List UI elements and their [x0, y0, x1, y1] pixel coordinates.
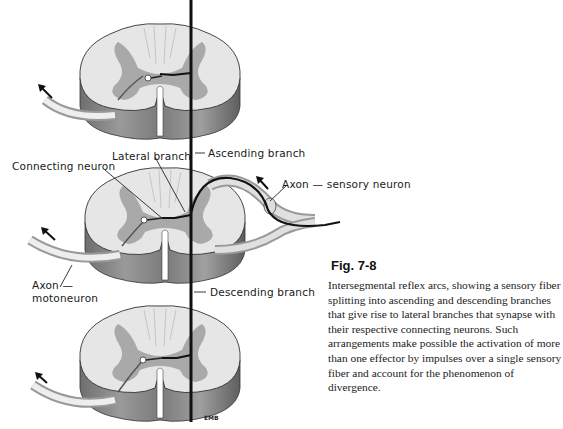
- spinal-segment-upper: [80, 24, 240, 140]
- artist-signature: EMB: [204, 414, 219, 421]
- arrow-upper-icon: [38, 84, 52, 98]
- label-lateral-branch: Lateral branch: [112, 150, 191, 162]
- label-descending-branch: Descending branch: [210, 286, 315, 298]
- label-axon-sensory-neuron: Axon — sensory neuron: [282, 178, 411, 190]
- arrow-middle-icon: [41, 227, 55, 240]
- label-ascending-branch: Ascending branch: [208, 147, 305, 159]
- figure-caption: Intersegmental reflex arcs, showing a se…: [328, 278, 563, 395]
- arrow-lower-icon: [35, 372, 47, 383]
- label-connecting-neuron: Connecting neuron: [12, 160, 115, 172]
- label-axon-motoneuron-2: motoneuron: [32, 292, 98, 304]
- figure-caption-block: Fig. 7-8 Intersegmental reflex arcs, sho…: [328, 258, 563, 395]
- label-axon-motoneuron-1: Axon —: [32, 279, 73, 291]
- figure-number: Fig. 7-8: [331, 258, 563, 273]
